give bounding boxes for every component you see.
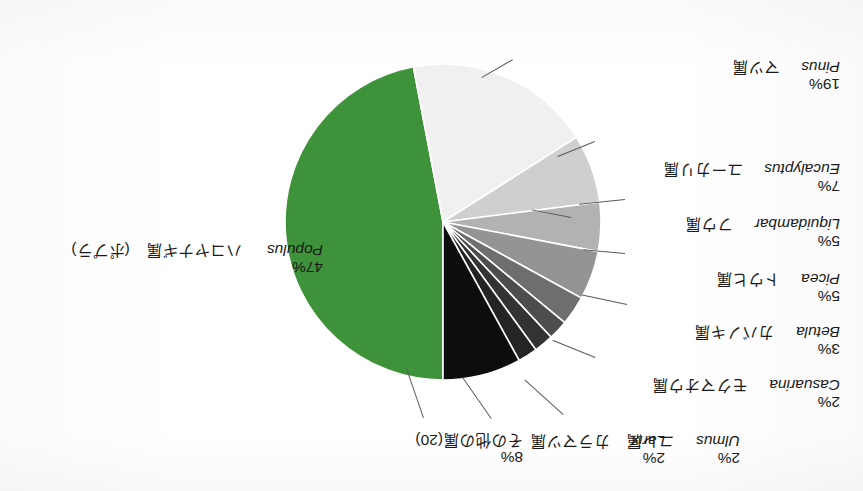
- slice-percent-ulmus: 2%: [626, 450, 740, 467]
- slice-percent-others: 8%: [415, 449, 523, 466]
- slice-label-casuarina: 2% Casuarina モクマオウ属: [652, 376, 840, 411]
- slice-japanese-name-eucalyptus: ユーカリ属: [663, 161, 743, 178]
- slice-label-eucalyptus: 7% Eucalyptus ユーカリ属: [663, 160, 840, 195]
- slice-japanese-name-others: その他の属(20): [415, 432, 523, 449]
- pie-slice-group: [285, 64, 601, 380]
- slice-scientific-name-casuarina: Casuarina: [769, 377, 840, 394]
- slice-japanese-name-ulmus: ニレ属: [626, 433, 674, 450]
- slice-japanese-name-populus: ハコヤナギ属: [146, 242, 242, 259]
- slice-japanese-name-liquidambar: フウ属: [685, 216, 733, 233]
- slice-japanese-name-casuarina: モクマオウ属: [652, 377, 748, 394]
- slice-scientific-name-ulmus: Ulmus: [696, 433, 740, 450]
- slice-japanese-name-pinus: マツ属: [732, 59, 780, 76]
- slice-japanese-alt-name-populus: (ポプラ): [71, 242, 129, 259]
- slice-percent-casuarina: 2%: [652, 394, 840, 411]
- slice-percent-betula: 3%: [694, 341, 840, 358]
- slice-percent-picea: 5%: [716, 288, 840, 305]
- slice-label-ulmus: 2% Ulmus ニレ属: [626, 432, 740, 467]
- slice-label-betula: 3% Betula カバノキ属: [694, 323, 840, 358]
- pie-slice-populus: [285, 67, 443, 380]
- slice-scientific-name-populus: Populus: [267, 242, 323, 259]
- slice-label-pinus: 19% Pinus マツ属: [732, 58, 840, 93]
- slice-scientific-name-betula: Betula: [796, 324, 840, 341]
- slice-percent-eucalyptus: 7%: [663, 178, 840, 195]
- slice-label-liquidambar: 5% Liquidambar フウ属: [685, 215, 840, 250]
- slice-label-others: 8% その他の属(20): [415, 431, 523, 466]
- slice-label-picea: 5% Picea トウヒ属: [716, 270, 840, 305]
- slice-scientific-name-eucalyptus: Eucalyptus: [764, 161, 840, 178]
- slice-percent-liquidambar: 5%: [685, 233, 840, 250]
- slice-japanese-name-betula: カバノキ属: [694, 324, 774, 341]
- slice-japanese-name-larix: カラマツ属: [530, 433, 610, 450]
- slice-scientific-name-picea: Picea: [801, 271, 840, 288]
- slice-scientific-name-liquidambar: Liquidambar: [755, 216, 840, 233]
- slice-percent-pinus: 19%: [732, 76, 840, 93]
- slice-japanese-name-picea: トウヒ属: [716, 271, 780, 288]
- slice-scientific-name-pinus: Pinus: [801, 59, 840, 76]
- slice-percent-populus: 47%: [71, 259, 323, 276]
- slice-label-populus: 47% Populus ハコヤナギ属 (ポプラ): [71, 241, 323, 276]
- pie-chart-figure: 19% Pinus マツ属 7% Eucalyptus ユーカリ属 5% Liq…: [0, 0, 863, 491]
